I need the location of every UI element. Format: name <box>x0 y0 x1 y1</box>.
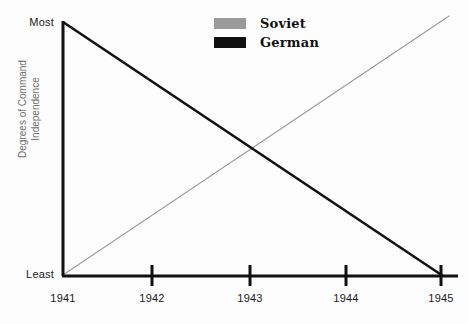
x-axis-tick-label-1943: 1943 <box>220 292 280 304</box>
y-axis-title-line-1: Degrees of Command <box>16 44 29 174</box>
chart-legend: Soviet German <box>214 16 319 50</box>
legend-swatch-german <box>214 37 246 48</box>
legend-item-german: German <box>214 35 319 50</box>
legend-label-soviet: Soviet <box>260 16 306 31</box>
series-line-german <box>63 22 443 276</box>
x-axis-tick-label-1941: 1941 <box>33 292 93 304</box>
legend-swatch-soviet <box>214 18 246 29</box>
x-axis-tick-label-1945: 1945 <box>411 292 469 304</box>
series-line-soviet <box>63 16 449 275</box>
legend-item-soviet: Soviet <box>214 16 319 31</box>
y-axis-label-most: Most <box>8 16 54 28</box>
y-axis-title: Degrees of Command Independence <box>16 44 42 174</box>
y-axis-label-least: Least <box>8 268 54 280</box>
chart-container: Most Least Degrees of Command Independen… <box>0 0 469 324</box>
y-axis-title-line-2: Independence <box>29 44 42 174</box>
x-axis-tick-label-1944: 1944 <box>316 292 376 304</box>
legend-label-german: German <box>260 35 319 50</box>
x-axis-tick-label-1942: 1942 <box>122 292 182 304</box>
